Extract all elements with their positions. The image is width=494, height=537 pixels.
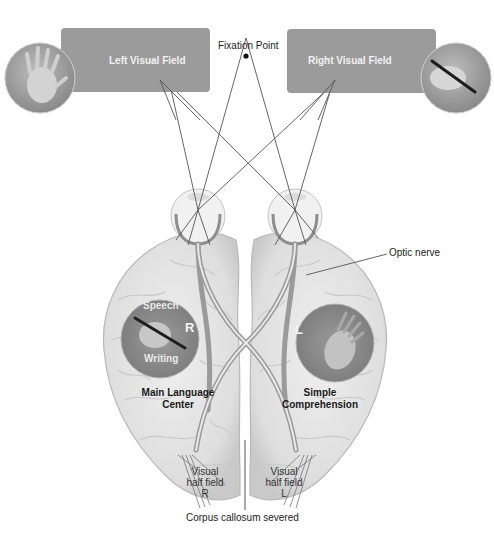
- visual-half-field-l-line1: Visual: [259, 466, 309, 477]
- right-visual-field-label: Right Visual Field: [308, 55, 392, 66]
- right-eye: [268, 189, 322, 244]
- visual-half-field-l: Visual half field L: [259, 466, 309, 499]
- visual-half-field-l-line3: L: [259, 488, 309, 499]
- right-circle-letter: L: [295, 322, 303, 337]
- corpus-callosum-label: Corpus callosum severed: [186, 512, 299, 523]
- simple-comprehension-line2: Comprehension: [270, 399, 370, 411]
- speech-label: Speech: [143, 300, 179, 311]
- visual-half-field-r-line3: R: [180, 488, 230, 499]
- simple-comprehension-line1: Simple: [270, 387, 370, 399]
- simple-comprehension-label: Simple Comprehension: [270, 387, 370, 411]
- visual-half-field-l-line2: half field: [259, 477, 309, 488]
- left-visual-field-label: Left Visual Field: [109, 55, 186, 66]
- main-language-line2: Center: [128, 399, 228, 411]
- visual-half-field-r-line2: half field: [180, 477, 230, 488]
- visual-half-field-r-line1: Visual: [180, 466, 230, 477]
- left-circle-letter: R: [185, 320, 194, 335]
- optic-nerve-label: Optic nerve: [389, 247, 440, 258]
- writing-label: Writing: [144, 353, 178, 364]
- fixation-point-dot: [243, 53, 248, 58]
- main-language-line1: Main Language: [128, 387, 228, 399]
- fixation-point-label: Fixation Point: [218, 40, 279, 51]
- visual-half-field-r: Visual half field R: [180, 466, 230, 499]
- main-language-center-label: Main Language Center: [128, 387, 228, 411]
